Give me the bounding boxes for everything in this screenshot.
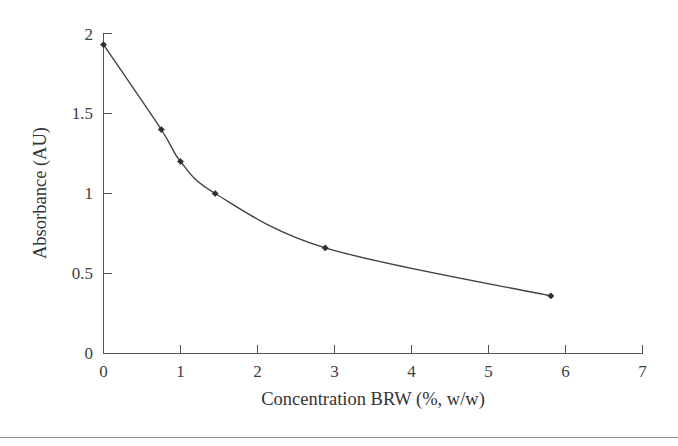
- x-tick-label-1: 1: [176, 362, 185, 381]
- x-tick-label-7: 7: [638, 362, 647, 381]
- x-tick-label-4: 4: [407, 362, 416, 381]
- x-tick-label-3: 3: [330, 362, 339, 381]
- x-tick-label-6: 6: [561, 362, 570, 381]
- x-tick-group: [104, 345, 643, 354]
- data-point-marker: [548, 293, 554, 299]
- x-tick-labels: 0 1 2 3 4 5 6 7: [99, 362, 647, 381]
- y-axis-title: Absorbance (AU): [30, 127, 51, 259]
- line-chart: 0 0.5 1 1.5 2 0 1 2 3 4 5 6 7: [0, 0, 678, 446]
- y-tick-label-0: 0: [85, 344, 94, 363]
- data-point-marker: [212, 190, 218, 196]
- data-markers-group: [100, 42, 554, 299]
- y-tick-label-1: 1: [85, 184, 94, 203]
- data-point-marker: [322, 245, 328, 251]
- axes-group: [104, 33, 644, 354]
- y-tick-label-0.5: 0.5: [72, 264, 93, 283]
- y-tick-labels: 0 0.5 1 1.5 2: [72, 25, 93, 363]
- data-series-group: [100, 42, 554, 299]
- x-tick-label-2: 2: [253, 362, 262, 381]
- y-tick-label-1.5: 1.5: [72, 104, 93, 123]
- data-line-path: [104, 45, 551, 296]
- x-axis-title: Concentration BRW (%, w/w): [261, 389, 485, 410]
- bottom-rule-divider: [0, 437, 678, 438]
- figure-container: 0 0.5 1 1.5 2 0 1 2 3 4 5 6 7: [0, 0, 678, 446]
- x-tick-label-5: 5: [484, 362, 493, 381]
- x-tick-label-0: 0: [99, 362, 108, 381]
- y-tick-group: [104, 34, 113, 354]
- y-tick-label-2: 2: [85, 25, 94, 44]
